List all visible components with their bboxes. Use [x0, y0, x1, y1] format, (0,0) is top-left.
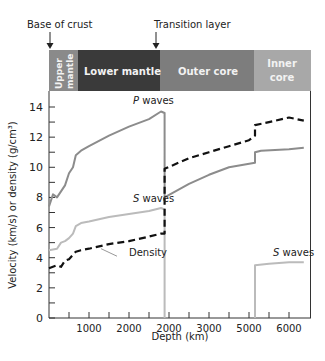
y-tick-label: 10	[29, 161, 43, 174]
y-tick-label: 4	[36, 252, 43, 265]
arrow-down-icon	[47, 43, 54, 49]
x-tick-label: 2000	[116, 323, 141, 334]
inner-core-label-1: Inner	[267, 58, 297, 69]
y-tick-label: 2	[36, 282, 43, 295]
x-tick-label: 1000	[76, 323, 101, 334]
p-waves-line	[49, 112, 304, 207]
inner-core-label-2: core	[270, 72, 295, 83]
y-axis-label: Velocity (km/s) or density (g/cm³)	[7, 121, 18, 289]
series-label: P waves	[133, 95, 174, 106]
y-tick-label: 14	[29, 101, 43, 114]
x-tick-label: 6000	[276, 323, 301, 334]
outer-core-label: Outer core	[178, 66, 238, 77]
chart-canvas: Base of crust Transition layer Upper man…	[0, 0, 325, 361]
series-label: S waves	[273, 247, 314, 258]
s-waves-line	[49, 208, 165, 318]
s-waves-inner-core-line	[255, 262, 304, 318]
series-label: Density	[129, 247, 167, 258]
y-tick-label: 0	[36, 312, 43, 325]
upper-mantle-label-1: Upper	[54, 58, 64, 89]
y-tick-label: 6	[36, 222, 43, 235]
layer-bar: Upper mantle Lower mantle Outer core Inn…	[49, 50, 311, 91]
base-of-crust-label: Base of crust	[27, 19, 93, 30]
x-axis-label: Depth (km)	[152, 331, 209, 342]
transition-layer-label: Transition layer	[153, 19, 232, 30]
y-tick-label: 12	[29, 131, 43, 144]
series-labels: P wavesS wavesDensityS waves	[129, 95, 314, 258]
density-leader-line	[101, 249, 117, 257]
x-tick-label: 5000	[236, 323, 261, 334]
inner-core-segment	[254, 50, 311, 91]
arrow-down-icon	[153, 43, 160, 49]
y-tick-label: 8	[36, 191, 43, 204]
density-line	[49, 118, 304, 269]
series-group	[49, 112, 304, 319]
y-ticks: 02468101214	[29, 101, 55, 325]
series-label: S waves	[133, 193, 174, 204]
lower-mantle-label: Lower mantle	[84, 66, 161, 77]
upper-mantle-label-2: mantle	[65, 54, 75, 89]
